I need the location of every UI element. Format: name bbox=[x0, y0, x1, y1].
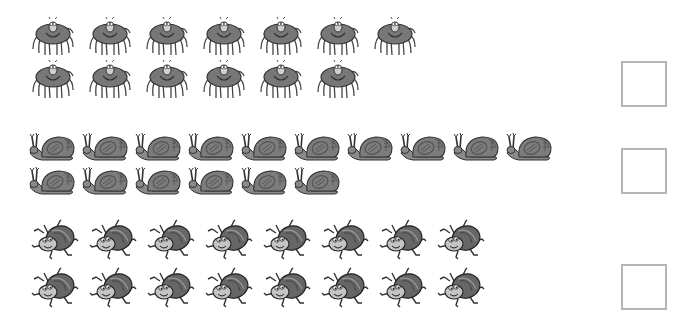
beetle-item bbox=[262, 219, 312, 261]
beetle-item bbox=[146, 219, 196, 261]
beetle-item bbox=[204, 267, 254, 309]
snail-item bbox=[293, 131, 341, 161]
snail-item bbox=[81, 131, 129, 161]
spider-item bbox=[314, 58, 362, 100]
beetle-item bbox=[320, 267, 370, 309]
spider-icon bbox=[29, 58, 77, 100]
spider-item bbox=[257, 15, 305, 57]
snail-icon bbox=[240, 131, 288, 161]
snail-icon bbox=[187, 131, 235, 161]
snail-icon bbox=[81, 165, 129, 195]
spider-icon bbox=[86, 15, 134, 57]
spider-item bbox=[371, 15, 419, 57]
beetle-icon bbox=[262, 267, 312, 309]
spider-item bbox=[143, 58, 191, 100]
snail-item bbox=[28, 165, 76, 195]
snail-icon bbox=[134, 165, 182, 195]
spider-item bbox=[29, 15, 77, 57]
beetle-item bbox=[88, 219, 138, 261]
spider-item bbox=[86, 15, 134, 57]
beetle-icon bbox=[320, 267, 370, 309]
spiders-answer-box[interactable] bbox=[621, 61, 667, 107]
snail-item bbox=[187, 131, 235, 161]
spider-icon bbox=[86, 58, 134, 100]
beetle-item bbox=[30, 267, 80, 309]
spider-icon bbox=[257, 15, 305, 57]
spider-icon bbox=[200, 58, 248, 100]
snail-icon bbox=[346, 131, 394, 161]
beetle-icon bbox=[204, 219, 254, 261]
spider-item bbox=[86, 58, 134, 100]
beetle-icon bbox=[30, 267, 80, 309]
spider-item bbox=[200, 58, 248, 100]
beetle-item bbox=[436, 219, 486, 261]
beetle-icon bbox=[378, 219, 428, 261]
beetle-item bbox=[88, 267, 138, 309]
snail-icon bbox=[399, 131, 447, 161]
spider-item bbox=[314, 15, 362, 57]
beetle-icon bbox=[146, 267, 196, 309]
beetles-answer-box[interactable] bbox=[621, 264, 667, 310]
beetle-icon bbox=[436, 219, 486, 261]
spider-item bbox=[200, 15, 248, 57]
snail-icon bbox=[187, 165, 235, 195]
snail-icon bbox=[81, 131, 129, 161]
beetle-item bbox=[320, 219, 370, 261]
snail-item bbox=[187, 165, 235, 195]
snail-icon bbox=[28, 131, 76, 161]
snail-icon bbox=[293, 165, 341, 195]
beetle-item bbox=[30, 219, 80, 261]
snail-item bbox=[134, 165, 182, 195]
snails-answer-box[interactable] bbox=[621, 148, 667, 194]
snail-item bbox=[240, 131, 288, 161]
spider-icon bbox=[371, 15, 419, 57]
spider-item bbox=[257, 58, 305, 100]
beetle-icon bbox=[262, 219, 312, 261]
snail-item bbox=[28, 131, 76, 161]
snail-icon bbox=[452, 131, 500, 161]
snail-icon bbox=[28, 165, 76, 195]
beetle-icon bbox=[320, 219, 370, 261]
beetle-icon bbox=[436, 267, 486, 309]
beetle-icon bbox=[146, 219, 196, 261]
spider-icon bbox=[29, 15, 77, 57]
spider-icon bbox=[143, 15, 191, 57]
snail-item bbox=[399, 131, 447, 161]
snail-item bbox=[81, 165, 129, 195]
beetle-item bbox=[146, 267, 196, 309]
beetle-item bbox=[436, 267, 486, 309]
snail-icon bbox=[240, 165, 288, 195]
spider-icon bbox=[257, 58, 305, 100]
beetle-icon bbox=[378, 267, 428, 309]
beetle-item bbox=[378, 219, 428, 261]
snail-item bbox=[134, 131, 182, 161]
beetle-icon bbox=[204, 267, 254, 309]
spider-icon bbox=[314, 58, 362, 100]
spider-icon bbox=[143, 58, 191, 100]
snail-item bbox=[293, 165, 341, 195]
snail-item bbox=[346, 131, 394, 161]
beetle-icon bbox=[88, 267, 138, 309]
beetle-icon bbox=[88, 219, 138, 261]
snail-icon bbox=[134, 131, 182, 161]
snail-icon bbox=[505, 131, 553, 161]
spider-icon bbox=[200, 15, 248, 57]
snail-item bbox=[240, 165, 288, 195]
beetle-item bbox=[204, 219, 254, 261]
beetle-item bbox=[378, 267, 428, 309]
spider-icon bbox=[314, 15, 362, 57]
snail-icon bbox=[293, 131, 341, 161]
snail-item bbox=[505, 131, 553, 161]
beetle-icon bbox=[30, 219, 80, 261]
beetle-item bbox=[262, 267, 312, 309]
spider-item bbox=[143, 15, 191, 57]
snail-item bbox=[452, 131, 500, 161]
spider-item bbox=[29, 58, 77, 100]
